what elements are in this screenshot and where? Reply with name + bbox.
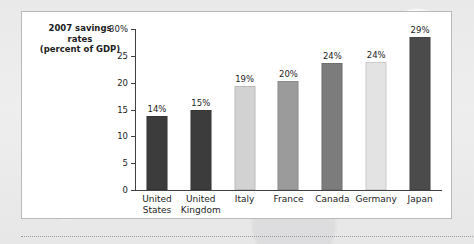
bar-group-japan[interactable]: 29%Japan (398, 29, 442, 190)
x-axis-category-label-line: Kingdom (181, 205, 221, 216)
bar[interactable] (322, 63, 343, 190)
y-tick-label: 15 (117, 105, 128, 115)
bar-group-germany[interactable]: 24%Germany (354, 29, 398, 190)
y-tick-mark (131, 190, 136, 191)
x-axis-category-label: UnitedStates (142, 194, 172, 216)
bar[interactable] (410, 37, 431, 190)
bar[interactable] (146, 116, 167, 190)
bar-value-label: 20% (279, 69, 298, 79)
y-tick-label: 25 (117, 51, 128, 61)
y-tick-label: 20 (117, 78, 128, 88)
y-tick-label: 30% (109, 24, 128, 34)
bar[interactable] (366, 62, 387, 190)
x-axis-category-label-line: Japan (408, 194, 433, 205)
y-tick-label: 0 (123, 185, 128, 195)
x-axis-category-label: Japan (408, 194, 433, 205)
bar[interactable] (190, 110, 211, 190)
x-axis-category-label: Germany (356, 194, 397, 205)
bar-group-canada[interactable]: 24%Canada (310, 29, 354, 190)
footer-dotted-divider (21, 236, 473, 237)
bar[interactable] (234, 86, 255, 190)
bar-value-label: 24% (367, 50, 386, 60)
x-axis-category-label: France (274, 194, 304, 205)
x-axis-category-label: UnitedKingdom (181, 194, 221, 216)
bar[interactable] (278, 81, 299, 190)
x-axis-line (135, 190, 442, 191)
bar-group-united-kingdom[interactable]: 15%UnitedKingdom (179, 29, 223, 190)
bar-value-label: 24% (323, 51, 342, 61)
bar-value-label: 29% (411, 25, 430, 35)
chart-title-line-2: rates (26, 34, 134, 45)
bar-group-france[interactable]: 20%France (267, 29, 311, 190)
x-axis-category-label: Italy (235, 194, 255, 205)
x-axis-category-label-line: Germany (356, 194, 397, 205)
bar-value-label: 19% (235, 74, 254, 84)
savings-rate-bar-chart: 2007 savings rates (percent of GDP) 30%2… (22, 12, 453, 220)
x-axis-category-label: Canada (315, 194, 349, 205)
x-axis-category-label-line: United (181, 194, 221, 205)
x-axis-category-label-line: United (142, 194, 172, 205)
bar-group-italy[interactable]: 19%Italy (223, 29, 267, 190)
x-axis-category-label-line: Canada (315, 194, 349, 205)
x-axis-category-label-line: France (274, 194, 304, 205)
y-tick-label: 10 (117, 131, 128, 141)
bar-value-label: 14% (147, 104, 166, 114)
bar-series: 14%UnitedStates15%UnitedKingdom19%Italy2… (135, 29, 442, 190)
plot-area: 30%2520151050 14%UnitedStates15%UnitedKi… (135, 29, 442, 191)
y-tick-label: 5 (123, 158, 128, 168)
chart-panel: 2007 savings rates (percent of GDP) 30%2… (21, 11, 452, 219)
x-axis-category-label-line: Italy (235, 194, 255, 205)
x-axis-category-label-line: States (142, 205, 172, 216)
bar-value-label: 15% (191, 98, 210, 108)
bar-group-united-states[interactable]: 14%UnitedStates (135, 29, 179, 190)
